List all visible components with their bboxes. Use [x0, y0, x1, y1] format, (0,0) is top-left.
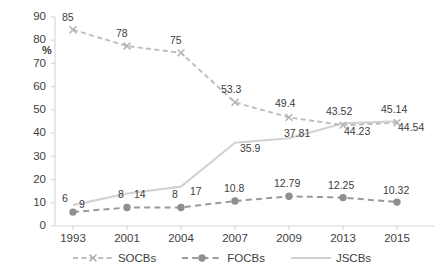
legend-swatch-socbs-icon — [73, 252, 113, 264]
line-chart: 90 80 70 60 50 40 30 20 10 0 % 1993 2001… — [0, 0, 444, 272]
chart-legend: SOCBs FOCBs JSCBs — [0, 248, 444, 268]
y-axis-unit-label: % — [42, 44, 52, 56]
data-label-focbs-2015: 10.32 — [383, 185, 409, 196]
x-tick-1993: 1993 — [45, 232, 101, 244]
legend-item-focbs[interactable]: FOCBs — [182, 252, 265, 264]
data-label-focbs-2004: 8 — [172, 189, 178, 200]
x-tick-2009: 2009 — [261, 232, 317, 244]
y-tick-0: 0 — [18, 220, 46, 231]
legend-label-jscbs: JSCBs — [336, 252, 371, 264]
data-label-socbs-2009: 49.4 — [275, 98, 295, 109]
legend-item-jscbs[interactable]: JSCBs — [291, 252, 371, 264]
data-label-socbs-2015: 44.54 — [398, 122, 424, 133]
legend-label-socbs: SOCBs — [118, 252, 156, 264]
y-tick-60: 60 — [18, 81, 46, 92]
x-tick-2013: 2013 — [315, 232, 371, 244]
data-label-jscbs-2007: 35.9 — [240, 143, 260, 154]
data-label-jscbs-2001: 14 — [134, 189, 146, 200]
y-tick-70: 70 — [18, 58, 46, 69]
legend-item-socbs[interactable]: SOCBs — [73, 252, 156, 264]
y-tick-40: 40 — [18, 127, 46, 138]
data-label-focbs-2001: 8 — [118, 189, 124, 200]
y-tick-10: 10 — [18, 197, 46, 208]
y-tick-30: 30 — [18, 151, 46, 162]
data-label-jscbs-2004: 17 — [190, 186, 202, 197]
y-tick-20: 20 — [18, 174, 46, 185]
legend-label-focbs: FOCBs — [227, 252, 265, 264]
legend-swatch-focbs-icon — [182, 252, 222, 264]
data-label-socbs-1993: 85 — [62, 12, 74, 23]
data-label-socbs-2007: 53.3 — [221, 84, 241, 95]
data-label-focbs-2007: 10.8 — [224, 183, 244, 194]
x-tick-2004: 2004 — [153, 232, 209, 244]
data-label-jscbs-1993: 9 — [79, 199, 85, 210]
x-tick-marks — [73, 226, 397, 230]
data-label-socbs-2004: 75 — [170, 35, 182, 46]
data-label-jscbs-2009: 37.81 — [284, 128, 310, 139]
legend-swatch-jscbs-icon — [291, 252, 331, 264]
x-tick-2007: 2007 — [207, 232, 263, 244]
data-label-jscbs-2015: 45.14 — [381, 104, 407, 115]
x-tick-2015: 2015 — [369, 232, 425, 244]
data-label-focbs-2013: 12.25 — [328, 180, 354, 191]
data-label-focbs-1993: 6 — [62, 193, 68, 204]
x-tick-2001: 2001 — [99, 232, 155, 244]
y-tick-50: 50 — [18, 104, 46, 115]
data-label-focbs-2009: 12.79 — [274, 178, 300, 189]
data-label-socbs-2001: 78 — [116, 28, 128, 39]
y-tick-90: 90 — [18, 11, 46, 22]
data-label-socbs-2013: 43.52 — [326, 106, 352, 117]
data-label-jscbs-2013: 44.23 — [344, 126, 370, 137]
